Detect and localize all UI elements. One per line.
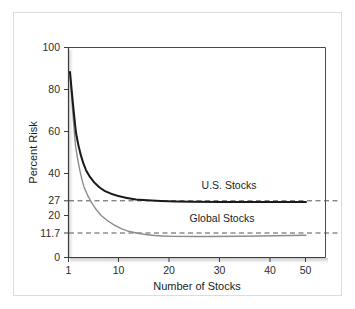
series-label-global-stocks: Global Stocks bbox=[190, 212, 255, 224]
baseline-shadow bbox=[70, 258, 328, 263]
y-tick-label-100: 100 bbox=[42, 41, 60, 53]
y-axis-ticks bbox=[64, 48, 68, 258]
x-tick-label-30: 30 bbox=[214, 264, 226, 276]
y-tick-label-0: 0 bbox=[54, 251, 60, 263]
y-tick-label-11-7: 11.7 bbox=[40, 227, 60, 239]
series-label-us-stocks: U.S. Stocks bbox=[202, 179, 257, 191]
x-axis-title: Number of Stocks bbox=[153, 280, 241, 292]
y-tick-label-60: 60 bbox=[48, 125, 60, 137]
y-tick-label-27: 27 bbox=[48, 194, 60, 206]
x-tick-label-20: 20 bbox=[163, 264, 175, 276]
series-line-us-stocks bbox=[70, 72, 306, 202]
y-axis-title: Percent Risk bbox=[27, 121, 39, 184]
y-tick-label-40: 40 bbox=[48, 167, 60, 179]
y-tick-label-80: 80 bbox=[48, 83, 60, 95]
x-tick-label-40: 40 bbox=[264, 264, 276, 276]
y-tick-label-20: 20 bbox=[48, 209, 60, 221]
x-tick-label-1: 1 bbox=[66, 264, 72, 276]
risk-diversification-chart: 100 80 60 40 27 20 11.7 0 1 10 20 30 40 … bbox=[0, 0, 355, 309]
series-line-global-stocks bbox=[70, 72, 306, 236]
x-tick-label-10: 10 bbox=[113, 264, 125, 276]
x-tick-label-50: 50 bbox=[300, 264, 312, 276]
